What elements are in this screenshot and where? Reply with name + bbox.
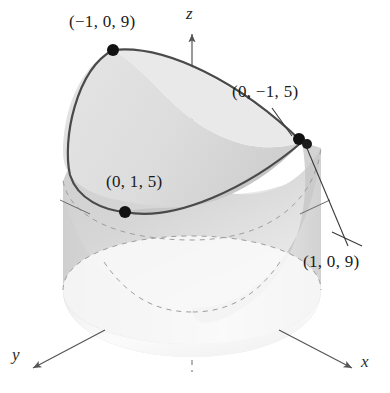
cylinder-bottom: [63, 236, 321, 357]
axis-label-x: x: [361, 352, 369, 372]
point-1-0-9-dot: [302, 139, 312, 149]
point-0-1-5-dot: [119, 206, 131, 218]
label-point-neg1-0-9: (−1, 0, 9): [69, 12, 135, 32]
bottom-ellipse: [63, 236, 321, 344]
label-point-0-1-5: (0, 1, 5): [106, 172, 163, 192]
y-axis-line: [33, 330, 105, 368]
axis-label-z: z: [186, 4, 193, 24]
solid-diagram: [0, 0, 390, 393]
label-point-1-0-9: (1, 0, 9): [303, 252, 360, 272]
x-axis-line: [279, 330, 352, 368]
point-neg1-0-9-dot: [107, 44, 119, 56]
figure-canvas: (−1, 0, 9) (0, −1, 5) (0, 1, 5) (1, 0, 9…: [0, 0, 390, 393]
label-point-0-neg1-5: (0, −1, 5): [232, 82, 298, 102]
axis-label-y: y: [12, 345, 20, 365]
